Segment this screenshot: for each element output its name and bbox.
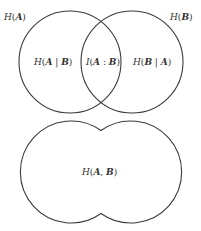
label-joint-entropy: H(A, B) — [81, 167, 117, 177]
label-h-b: H(B) — [169, 12, 193, 22]
label-h-b-given-a: H(B | A) — [132, 57, 171, 68]
label-h-a: H(A) — [3, 12, 26, 22]
label-mutual-information: I(A : B) — [85, 57, 120, 67]
label-h-a-given-b: H(A | B) — [33, 57, 72, 68]
entropy-venn-diagram: H(A) H(B) H(A | B) I(A : B) H(B | A) H(A… — [0, 0, 201, 231]
